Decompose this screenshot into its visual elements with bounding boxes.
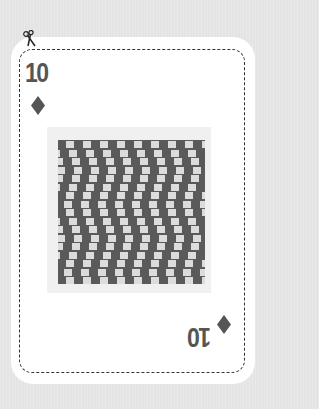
pattern-row: [58, 251, 205, 260]
rank-label-top: 10: [25, 59, 47, 87]
pattern-row: [58, 174, 205, 183]
pattern-row: [58, 157, 205, 166]
pattern-row: [58, 217, 205, 226]
pattern-row: [58, 140, 205, 149]
rank-label-bottom: 10: [189, 323, 211, 351]
cafe-wall-illusion-artwork: [58, 140, 205, 284]
pattern-row: [58, 234, 205, 243]
scissors-icon: [22, 30, 38, 48]
pattern-row: [58, 268, 205, 277]
pattern-row: [58, 242, 205, 251]
pattern-row: [58, 208, 205, 217]
diamond-icon: [31, 96, 45, 115]
pattern-row: [58, 149, 205, 158]
pattern-row: [58, 259, 205, 268]
pattern-row: [58, 200, 205, 209]
pattern-row: [58, 276, 205, 284]
pattern-row: [58, 225, 205, 234]
pattern-row: [58, 191, 205, 200]
pattern-row: [58, 183, 205, 192]
pattern-row: [58, 166, 205, 175]
diamond-icon: [217, 315, 231, 334]
